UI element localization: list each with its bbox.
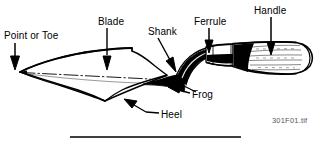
leader-shank <box>158 38 170 60</box>
image-filename-watermark: 301F01.tif <box>272 116 307 125</box>
leader-heel <box>146 112 159 113</box>
label-blade: Blade <box>98 16 124 27</box>
label-frog: Frog <box>192 89 213 100</box>
arrowhead-frog <box>168 86 181 93</box>
label-point-or-toe: Point or Toe <box>4 30 58 41</box>
label-handle: Handle <box>254 5 286 16</box>
label-ferrule: Ferrule <box>194 16 226 27</box>
blade-outline <box>20 48 167 101</box>
leader-heel-stem <box>134 105 146 112</box>
trowel-illustration <box>0 0 326 150</box>
trowel-blade-group <box>20 48 167 101</box>
arrowhead-shank <box>166 57 176 72</box>
label-shank: Shank <box>148 26 177 37</box>
figure-canvas: Point or Toe Blade Shank Ferrule Handle … <box>0 0 326 150</box>
label-heel: Heel <box>161 109 182 120</box>
arrowhead-point-or-toe <box>11 56 20 70</box>
arrowhead-heel <box>124 99 137 108</box>
